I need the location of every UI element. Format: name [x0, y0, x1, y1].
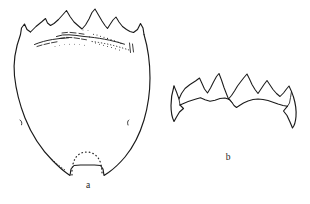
figure-a-transverse-ridge-left: [35, 38, 69, 45]
figure-a-lower-left-dotted-edge: [52, 160, 67, 172]
figure-a-transverse-ridge-center: [57, 35, 90, 37]
figure-a-right-setal-puncture: [128, 120, 129, 125]
figure-a-left-setal-puncture: [20, 120, 22, 125]
figure-a-left-shoulder: [21, 24, 31, 35]
figure-a-transverse-ridge-right: [90, 37, 125, 44]
figure-a-label: a: [86, 180, 91, 190]
figure-a-dentate-margin: [31, 9, 134, 33]
figure-b-right-spur-inner-stroke: [288, 92, 292, 107]
figure-b-outer-dentate-margin: [174, 74, 294, 100]
figure-b: b: [171, 74, 296, 163]
figure-a-right-shoulder-bracket: [130, 43, 134, 53]
figure-a-ridge-dotted-extension: [92, 42, 129, 51]
figure-b-inner-carina: [180, 98, 288, 108]
figure-b-label: b: [226, 152, 231, 162]
figure-a-right-shoulder: [134, 24, 145, 35]
line-drawing-canvas: a b: [0, 0, 310, 204]
figure-a-body-outline: [14, 35, 150, 176]
figure-a-ridge-hatching: [37, 32, 87, 46]
figure-a: a: [14, 9, 150, 190]
figure-a-posterior-emargination-arch: [72, 152, 102, 175]
figure-b-left-spur-inner-stroke: [179, 99, 180, 105]
illustration-plate: a b: [0, 0, 310, 204]
